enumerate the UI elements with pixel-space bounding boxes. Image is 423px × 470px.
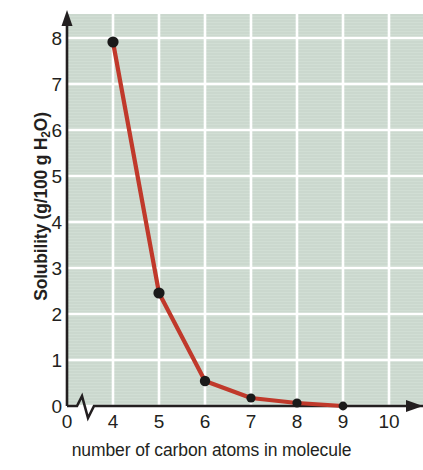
data-point <box>200 376 210 386</box>
x-axis-arrow-icon <box>406 400 423 412</box>
data-point <box>153 287 164 298</box>
y-axis <box>62 10 73 406</box>
series-markers <box>107 36 347 410</box>
vertical-gridlines <box>113 14 389 406</box>
data-point <box>339 402 348 411</box>
data-point <box>107 36 118 47</box>
data-point <box>246 393 255 402</box>
chart-figure: Solubility (g/100 g H2O) number of carbo… <box>0 0 423 470</box>
x-axis-break-zigzag-icon <box>67 396 423 418</box>
chart-canvas <box>0 0 423 470</box>
x-axis <box>67 396 423 418</box>
series-line <box>113 42 343 406</box>
y-axis-arrow-icon <box>62 10 73 26</box>
data-point <box>292 398 301 407</box>
